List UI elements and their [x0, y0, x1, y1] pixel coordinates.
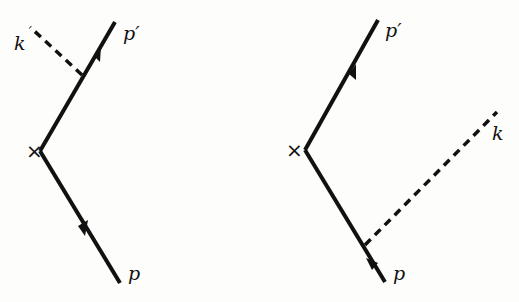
- outgoing-fermion-line: [305, 20, 378, 150]
- outgoing-fermion-line: [40, 22, 115, 151]
- feynman-diagrams: × k p′ p × p′ k p: [0, 0, 519, 302]
- label-p: p: [393, 262, 405, 284]
- label-p-prime: p′: [385, 19, 402, 41]
- incoming-fermion-line: [40, 151, 120, 283]
- label-k: k: [14, 32, 26, 54]
- diagram-right: × p′ k p: [286, 19, 504, 284]
- diagram-left: × k p′ p: [14, 22, 140, 284]
- photon-line: [365, 112, 497, 245]
- label-k: k: [492, 122, 504, 144]
- vertex-cross-icon: ×: [286, 138, 303, 162]
- vertex-cross-icon: ×: [26, 139, 43, 163]
- label-p-prime: p′: [123, 22, 140, 44]
- label-p: p: [128, 262, 140, 284]
- photon-line: [30, 27, 82, 75]
